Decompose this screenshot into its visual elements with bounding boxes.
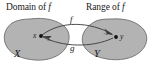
- point-y-label: y: [120, 33, 123, 41]
- map-f-label: f: [70, 15, 73, 24]
- domain-header-symbol: f: [48, 2, 51, 12]
- point-y-dot: [114, 35, 118, 39]
- point-x-label: x: [33, 32, 36, 40]
- point-x-dot: [39, 34, 43, 38]
- set-y-label: Y: [94, 49, 100, 60]
- range-header: Range of f: [86, 3, 125, 13]
- set-y-blob: [82, 19, 147, 60]
- inverse-function-diagram: Domain of f Range of f X Y x y f g: [0, 0, 155, 73]
- set-x-label: X: [14, 49, 20, 60]
- domain-header-text: Domain of: [6, 2, 48, 12]
- domain-header: Domain of f: [6, 3, 51, 13]
- map-g-label: g: [70, 44, 75, 53]
- range-header-text: Range of: [86, 2, 122, 12]
- range-header-symbol: f: [122, 2, 125, 12]
